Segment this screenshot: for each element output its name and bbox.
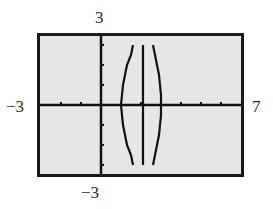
graph-plot [0,0,273,209]
